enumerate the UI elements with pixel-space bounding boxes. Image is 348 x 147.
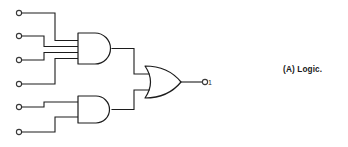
wire-input-2 [22,36,79,47]
input-terminal-6[interactable] [16,129,21,134]
output-label: 1 [208,79,212,86]
input-terminal-4[interactable] [16,81,21,86]
input-terminal-3[interactable] [16,57,21,62]
and-gate-top[interactable] [78,33,111,64]
input-wire-group [22,13,79,132]
figure-caption: (A) Logic. [283,65,322,74]
wire-input-6 [22,117,79,132]
internal-wire-group [112,49,149,110]
input-terminal-5[interactable] [16,104,21,109]
wire-and-bottom-output [112,90,149,110]
logic-figure: 1 (A) Logic. [0,0,348,147]
wire-input-5 [22,102,79,107]
wire-and-top-output [112,49,149,75]
input-terminal-group [16,10,21,134]
wire-input-4 [22,59,79,85]
input-terminal-2[interactable] [16,33,21,38]
or-gate[interactable] [145,66,181,98]
input-terminal-1[interactable] [16,10,21,15]
output-terminal[interactable] [202,79,207,84]
and-gate-bottom[interactable] [78,96,109,123]
